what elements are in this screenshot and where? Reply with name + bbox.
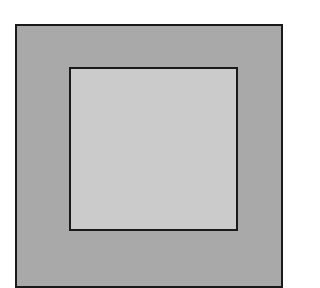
inner-square: [69, 67, 238, 231]
